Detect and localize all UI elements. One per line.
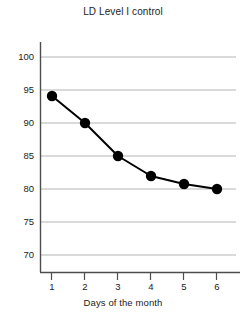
x-tick-label-6: 6 [207,282,227,292]
y-tick-label-85: 85 [4,151,34,161]
data-point-day-1 [47,91,57,101]
x-tick-marks [52,272,217,280]
y-tick-label-75: 75 [4,217,34,227]
y-tick-label-80: 80 [4,184,34,194]
data-point-day-4 [146,171,156,181]
gridlines [40,57,236,255]
y-tick-label-70: 70 [4,250,34,260]
data-point-day-3 [113,151,123,161]
y-tick-label-95: 95 [4,85,34,95]
data-point-markers [47,91,222,194]
x-tick-label-2: 2 [75,282,95,292]
x-axis-title: Days of the month [0,297,246,308]
data-point-day-2 [80,118,90,128]
x-tick-label-5: 5 [174,282,194,292]
data-point-day-5 [179,179,189,189]
chart-plot-area [0,0,246,319]
chart-container: LD Level I control [0,0,246,319]
y-tick-label-100: 100 [4,52,34,62]
data-line-series-1 [52,96,217,189]
data-point-day-6 [212,184,222,194]
y-tick-label-90: 90 [4,118,34,128]
x-tick-label-3: 3 [108,282,128,292]
x-tick-label-4: 4 [141,282,161,292]
x-tick-label-1: 1 [42,282,62,292]
